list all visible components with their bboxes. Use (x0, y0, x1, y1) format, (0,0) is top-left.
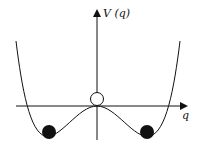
x-axis-label: q (182, 109, 189, 122)
double-well-diagram: V (q) q (0, 0, 203, 149)
left-minimum-ball (42, 125, 56, 139)
y-axis-label: V (q) (103, 7, 130, 20)
right-minimum-ball (140, 125, 154, 139)
potential-curve (16, 41, 180, 136)
unstable-maximum-ball (91, 93, 104, 106)
